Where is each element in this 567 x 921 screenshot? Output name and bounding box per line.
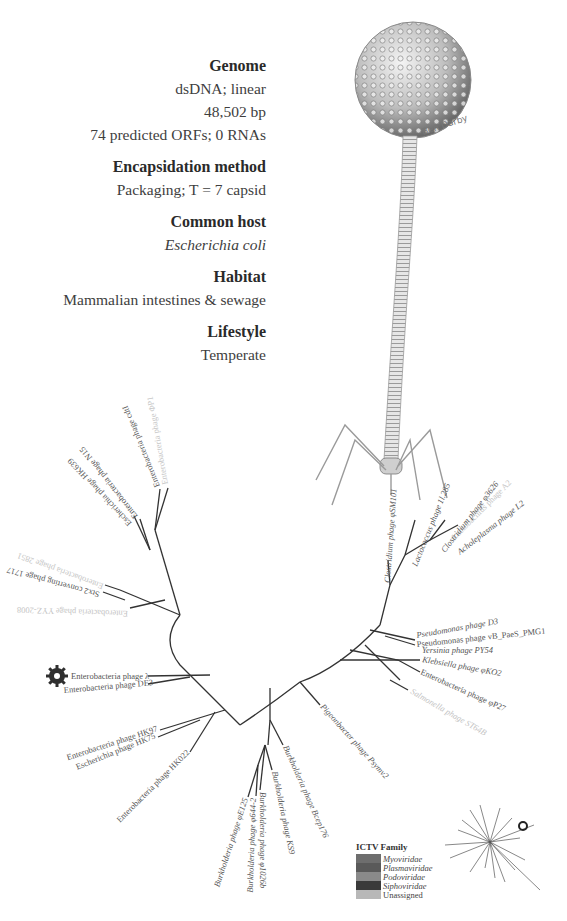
- leaf-label: Enterobacteria phage HK022: [114, 747, 191, 824]
- inset-highlight-icon: [519, 822, 527, 830]
- legend-swatch: [356, 890, 381, 899]
- leaf-label: Pigeonbacter phage Psymv2: [318, 701, 392, 781]
- tree-branches: [103, 488, 458, 797]
- legend-label: Unassigned: [383, 890, 423, 900]
- leaf-label: Clostridium phage φSM101: [382, 488, 399, 583]
- leaf-label: Burkholderia phage φE125: [212, 797, 250, 889]
- leaf-label: Enterobacteria phage YYZ-2008: [17, 605, 128, 619]
- ictv-family-legend: ICTV Family Myoviridae Plasmaviridae Pod…: [356, 842, 433, 899]
- leaf-label: Burkholderia phage KS9: [270, 770, 298, 855]
- tree-labels: Enterobacteria phage ΦP1 Enterobacteria …: [6, 396, 546, 893]
- legend-title: ICTV Family: [356, 842, 433, 852]
- leaf-label: Burkholderia phage φ1026b: [258, 792, 268, 888]
- legend-swatch: [356, 863, 381, 872]
- virus-icon: [46, 665, 68, 687]
- leaf-label: Burkholderia phage φ644-2: [245, 797, 258, 893]
- inset-tree-overview: [445, 805, 540, 890]
- legend-swatch: [356, 854, 381, 863]
- legend-swatch: [356, 881, 381, 890]
- leaf-label: Lactococcus phage 1l.285: [409, 481, 452, 568]
- legend-item: Unassigned: [356, 890, 433, 899]
- phylogenetic-tree: Enterobacteria phage ΦP1 Enterobacteria …: [0, 0, 567, 921]
- legend-swatch: [356, 872, 381, 881]
